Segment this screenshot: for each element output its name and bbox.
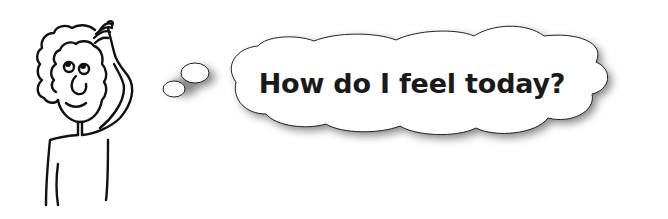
small-bubble-icon	[163, 81, 185, 97]
thought-bubble-text: How do I feel today?	[232, 58, 592, 108]
person-figure-icon	[37, 21, 132, 205]
illustration: How do I feel today?	[0, 0, 668, 219]
medium-bubble-icon	[181, 63, 209, 83]
drawing	[0, 0, 668, 219]
